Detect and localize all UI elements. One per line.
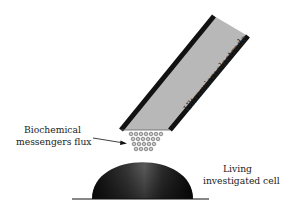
flux-label-line2: messengers flux xyxy=(16,136,92,147)
flux-arrow-shaft xyxy=(93,138,124,143)
biochemical-messengers xyxy=(129,132,163,151)
living-cell xyxy=(72,162,209,199)
cell-label-line1: Living xyxy=(223,163,252,174)
ultramicroelectrode: Ultramicroelectrode xyxy=(121,16,249,130)
cell-annotation: Living investigated cell xyxy=(203,163,280,186)
flux-label-line1: Biochemical xyxy=(24,124,81,135)
flux-arrow-head-icon xyxy=(120,141,127,146)
flux-annotation: Biochemical messengers flux xyxy=(16,124,127,147)
cell-label-line2: investigated cell xyxy=(203,175,280,186)
ultramicroelectrode-diagram: Ultramicroelectrode Biochemical messenge… xyxy=(0,0,283,207)
